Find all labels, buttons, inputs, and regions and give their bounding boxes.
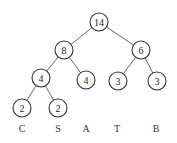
leaf-labels: CSATB xyxy=(19,123,160,134)
tree-node: 3 xyxy=(109,72,127,90)
node-value: 4 xyxy=(84,75,89,86)
node-value: 4 xyxy=(39,73,44,84)
tree-node: 4 xyxy=(77,71,95,89)
tree-edge xyxy=(45,86,53,100)
tree-node: 2 xyxy=(49,99,67,117)
leaf-label: C xyxy=(19,123,26,134)
leaf-label: S xyxy=(55,123,61,134)
tree-node: 2 xyxy=(13,99,31,117)
leaf-label: T xyxy=(114,123,120,134)
tree-node: 8 xyxy=(55,41,73,59)
tree-edges xyxy=(27,27,153,100)
leaf-label: A xyxy=(82,123,90,134)
node-value: 6 xyxy=(139,45,144,56)
node-value: 8 xyxy=(62,45,67,56)
tree-nodes: 1486443322 xyxy=(13,13,166,117)
tree-edge xyxy=(145,58,153,73)
node-value: 3 xyxy=(116,76,121,87)
tree-edge xyxy=(27,86,36,101)
huffman-tree-diagram: 1486443322 CSATB xyxy=(0,0,177,143)
node-value: 14 xyxy=(94,17,104,28)
tree-edge xyxy=(106,27,133,45)
tree-edge xyxy=(69,57,80,72)
tree-node: 6 xyxy=(132,41,150,59)
tree-node: 4 xyxy=(32,69,50,87)
tree-edge xyxy=(123,57,135,74)
node-value: 2 xyxy=(56,103,61,114)
node-value: 2 xyxy=(20,103,25,114)
tree-node: 3 xyxy=(148,72,166,90)
tree-node: 14 xyxy=(90,13,108,31)
tree-edge xyxy=(71,28,92,45)
tree-edge xyxy=(47,57,59,71)
leaf-label: B xyxy=(153,123,160,134)
node-value: 3 xyxy=(155,76,160,87)
